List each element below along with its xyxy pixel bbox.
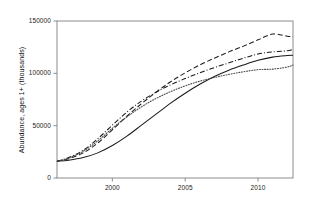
x-axis-ticks bbox=[112, 178, 258, 182]
series-line-2 bbox=[57, 34, 293, 161]
x-tick-label: 2000 bbox=[92, 184, 132, 191]
x-tick-label: 2010 bbox=[238, 184, 278, 191]
y-tick-label: 150000 bbox=[29, 17, 51, 24]
y-tick-label: 0 bbox=[47, 174, 51, 181]
chart-container: 050000100000150000 200020052010 Abundanc… bbox=[0, 0, 314, 214]
data-series-group bbox=[57, 34, 293, 161]
x-tick-label: 2005 bbox=[165, 184, 205, 191]
y-axis-ticks bbox=[54, 21, 58, 178]
y-tick-label: 100000 bbox=[29, 69, 51, 76]
y-axis-title: Abundance, ages 1+ (thousands) bbox=[18, 46, 25, 152]
y-tick-label: 50000 bbox=[32, 122, 51, 129]
plot-area bbox=[0, 0, 314, 214]
